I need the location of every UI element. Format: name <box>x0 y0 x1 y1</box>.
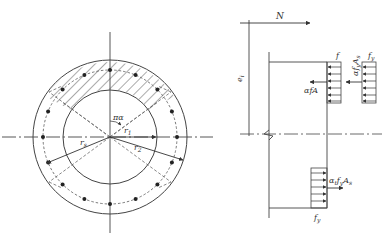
r2-arrow <box>110 137 183 160</box>
steel-tension-arrows <box>311 173 326 201</box>
steel-compression-block <box>362 62 376 103</box>
steel-yield-top-label: fy <box>367 51 375 62</box>
eccentricity-label: ei <box>235 75 245 82</box>
r1-label: r1 <box>124 126 132 136</box>
concrete-strength-label: f <box>335 51 341 60</box>
concrete-stress-arrows <box>328 67 341 101</box>
steel-compression-arrows <box>363 67 376 101</box>
rs-label: rs <box>80 138 87 148</box>
diagram-canvas: πα r1 r2 rs N ei f <box>0 0 387 239</box>
steel-tension-resultant-label: αtfyAs <box>329 176 352 187</box>
concrete-stress-block <box>327 62 341 103</box>
steel-tension-block <box>311 168 327 208</box>
angle-label: πα <box>112 113 124 122</box>
annular-section: πα r1 r2 rs <box>2 32 213 233</box>
rs-arrow <box>47 137 110 163</box>
steel-yield-bottom-label: fy <box>313 213 321 224</box>
stress-diagram: N ei f αfA <box>235 11 382 224</box>
axial-force-label: N <box>275 11 285 21</box>
r2-label: r2 <box>134 143 142 153</box>
steel-compression-resultant-label: αfyAs <box>351 55 362 76</box>
concrete-resultant-label: αfA <box>304 86 318 95</box>
break-symbol <box>264 130 273 140</box>
